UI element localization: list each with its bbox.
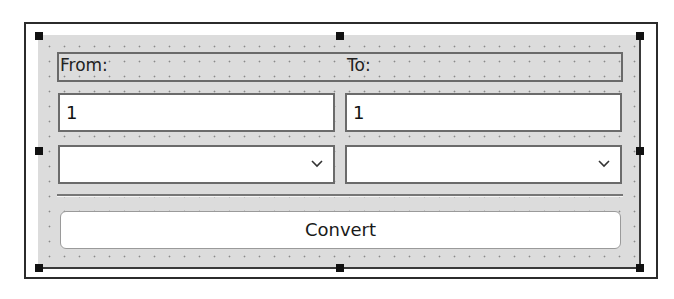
resize-handle-top-left[interactable] (35, 32, 43, 40)
resize-handle-bottom-center[interactable] (336, 264, 344, 272)
chevron-down-icon (597, 156, 611, 170)
to-label: To: (347, 55, 371, 75)
convert-button[interactable]: Convert (60, 211, 621, 249)
resize-handle-middle-left[interactable] (35, 147, 43, 155)
labels-layout (57, 52, 623, 82)
resize-handle-bottom-right[interactable] (636, 264, 644, 272)
to-unit-combo[interactable] (345, 145, 622, 184)
chevron-down-icon (310, 156, 324, 170)
from-unit-combo[interactable] (58, 145, 335, 184)
resize-handle-middle-right[interactable] (636, 147, 644, 155)
resize-handle-top-center[interactable] (336, 32, 344, 40)
to-value-input[interactable]: 1 (345, 93, 622, 132)
horizontal-separator-highlight (57, 196, 623, 197)
from-value-input[interactable]: 1 (58, 93, 335, 132)
from-label: From: (60, 55, 108, 75)
resize-handle-bottom-left[interactable] (35, 264, 43, 272)
resize-handle-top-right[interactable] (636, 32, 644, 40)
